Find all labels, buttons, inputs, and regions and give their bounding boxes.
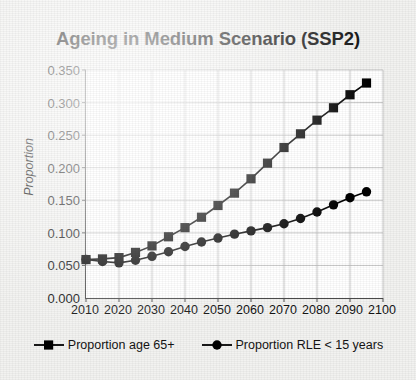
x-tick-label: 2090 — [335, 303, 363, 317]
x-tick-label: 2070 — [269, 303, 297, 317]
marker-square — [345, 90, 354, 99]
marker-square — [263, 159, 272, 168]
plot-area — [85, 70, 383, 299]
marker-square — [246, 174, 255, 183]
y-tick-label: 0.300 — [28, 95, 80, 110]
marker-square — [362, 78, 371, 87]
marker-circle — [329, 200, 338, 209]
marker-square — [147, 241, 156, 250]
x-tick-label: 2100 — [368, 303, 396, 317]
x-axis-tick-labels: 2010202020302040205020602070208020902100 — [85, 303, 382, 323]
y-tick-label: 0.200 — [28, 160, 80, 175]
legend-label: Proportion RLE < 15 years — [236, 338, 384, 352]
marker-square — [296, 129, 305, 138]
marker-square — [164, 232, 173, 241]
marker-circle — [312, 207, 321, 216]
marker-square — [329, 103, 338, 112]
series-line — [86, 83, 367, 260]
marker-circle — [131, 256, 140, 265]
marker-circle — [246, 226, 255, 235]
x-tick-label: 2010 — [71, 303, 99, 317]
legend-label: Proportion age 65+ — [68, 338, 175, 352]
marker-circle — [263, 223, 272, 232]
x-tick-label: 2050 — [203, 303, 231, 317]
legend-item-1[interactable]: Proportion age 65+ — [33, 338, 175, 352]
chart-title: Ageing in Medium Scenario (SSP2) — [0, 28, 416, 50]
marker-circle — [147, 252, 156, 261]
x-tick-label: 2080 — [302, 303, 330, 317]
legend-circle-marker-icon — [201, 338, 233, 352]
chart-figure: Ageing in Medium Scenario (SSP2) Proport… — [0, 0, 416, 380]
marker-circle — [81, 255, 90, 264]
legend-item-2[interactable]: Proportion RLE < 15 years — [201, 338, 384, 352]
y-tick-label: 0.150 — [28, 193, 80, 208]
x-tick-label: 2030 — [137, 303, 165, 317]
marker-square — [279, 143, 288, 152]
x-tick-label: 2040 — [170, 303, 198, 317]
marker-square — [197, 213, 206, 222]
x-tick-label: 2060 — [236, 303, 264, 317]
chart-legend: Proportion age 65+Proportion RLE < 15 ye… — [0, 338, 416, 352]
marker-square — [312, 116, 321, 125]
marker-circle — [296, 214, 305, 223]
marker-circle — [345, 193, 354, 202]
marker-circle — [180, 242, 189, 251]
y-tick-label: 0.250 — [28, 128, 80, 143]
marker-circle — [197, 237, 206, 246]
y-tick-label: 0.050 — [28, 258, 80, 273]
data-series-layer — [86, 70, 383, 298]
marker-square — [180, 223, 189, 232]
marker-circle — [213, 233, 222, 242]
marker-square — [213, 201, 222, 210]
x-tick-label: 2020 — [104, 303, 132, 317]
marker-square — [230, 189, 239, 198]
series-line — [86, 192, 367, 263]
y-tick-label: 0.100 — [28, 225, 80, 240]
y-axis-tick-labels: 0.0000.0500.1000.1500.2000.2500.3000.350 — [22, 70, 80, 298]
marker-circle — [230, 229, 239, 238]
marker-circle — [164, 247, 173, 256]
marker-circle — [362, 187, 371, 196]
y-tick-label: 0.350 — [28, 63, 80, 78]
legend-square-marker-icon — [33, 338, 65, 352]
marker-circle — [114, 258, 123, 267]
marker-circle — [279, 219, 288, 228]
marker-circle — [98, 257, 107, 266]
